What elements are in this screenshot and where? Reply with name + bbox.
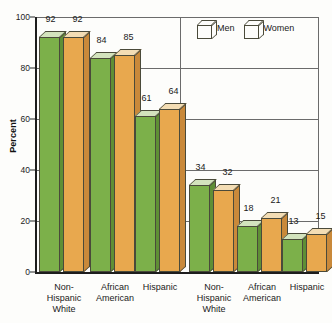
legend-item-women: Women <box>244 20 295 35</box>
bar-left-men-1 <box>90 58 111 272</box>
bar-value-left-women-1: 85 <box>123 32 133 42</box>
bar-right-women-2 <box>306 234 327 272</box>
bar-value-left-women-2: 64 <box>168 86 178 96</box>
bar-left-men-0 <box>39 37 60 272</box>
category-label-right-0: Non- Hispanic White <box>197 282 232 315</box>
bar-right-men-0 <box>189 185 210 272</box>
bar-right-men-2 <box>282 239 303 272</box>
bar-right-men-1 <box>237 226 258 272</box>
category-label-right-2: Hispanic <box>290 282 325 293</box>
bar-value-right-men-2: 13 <box>288 216 298 226</box>
category-label-left-2: Hispanic <box>143 282 178 293</box>
bar-left-men-2 <box>135 116 156 272</box>
bar-value-left-women-0: 92 <box>72 14 82 24</box>
bar-value-right-men-0: 34 <box>195 162 205 172</box>
y-tick-label-0: 0 <box>4 267 30 277</box>
bar-value-right-women-0: 32 <box>222 167 232 177</box>
bar-right-women-0 <box>213 190 234 272</box>
bar-chart: Percent 020406080100 9292848561643432182… <box>0 0 332 323</box>
y-tick-label-80: 80 <box>4 63 30 73</box>
y-tick-label-60: 60 <box>4 114 30 124</box>
y-axis-ticks: 020406080100 <box>0 0 30 323</box>
men-color-swatch-icon <box>197 20 212 35</box>
bar-left-women-2 <box>159 109 180 272</box>
bar-value-right-women-1: 21 <box>270 195 280 205</box>
category-label-right-1: African American <box>243 282 281 304</box>
category-label-left-0: Non- Hispanic White <box>47 282 82 315</box>
bar-left-women-1 <box>114 55 135 272</box>
category-label-left-1: African American <box>96 282 134 304</box>
legend-label-men: Men <box>217 23 235 33</box>
y-tick-label-40: 40 <box>4 165 30 175</box>
bar-value-right-men-1: 18 <box>243 203 253 213</box>
bar-left-women-0 <box>63 37 84 272</box>
bar-value-left-men-1: 84 <box>96 35 106 45</box>
bar-value-left-men-0: 92 <box>45 14 55 24</box>
legend-label-women: Women <box>264 23 295 33</box>
x-axis-line <box>35 272 319 274</box>
y-tick-label-20: 20 <box>4 216 30 226</box>
bar-value-right-women-2: 15 <box>315 211 325 221</box>
legend: Men Women <box>197 20 294 35</box>
bar-value-left-men-2: 61 <box>141 93 151 103</box>
legend-item-men: Men <box>197 20 235 35</box>
y-axis-line <box>35 17 37 272</box>
y-tick-label-100: 100 <box>4 12 30 22</box>
women-color-swatch-icon <box>244 20 259 35</box>
bar-right-women-1 <box>261 218 282 272</box>
